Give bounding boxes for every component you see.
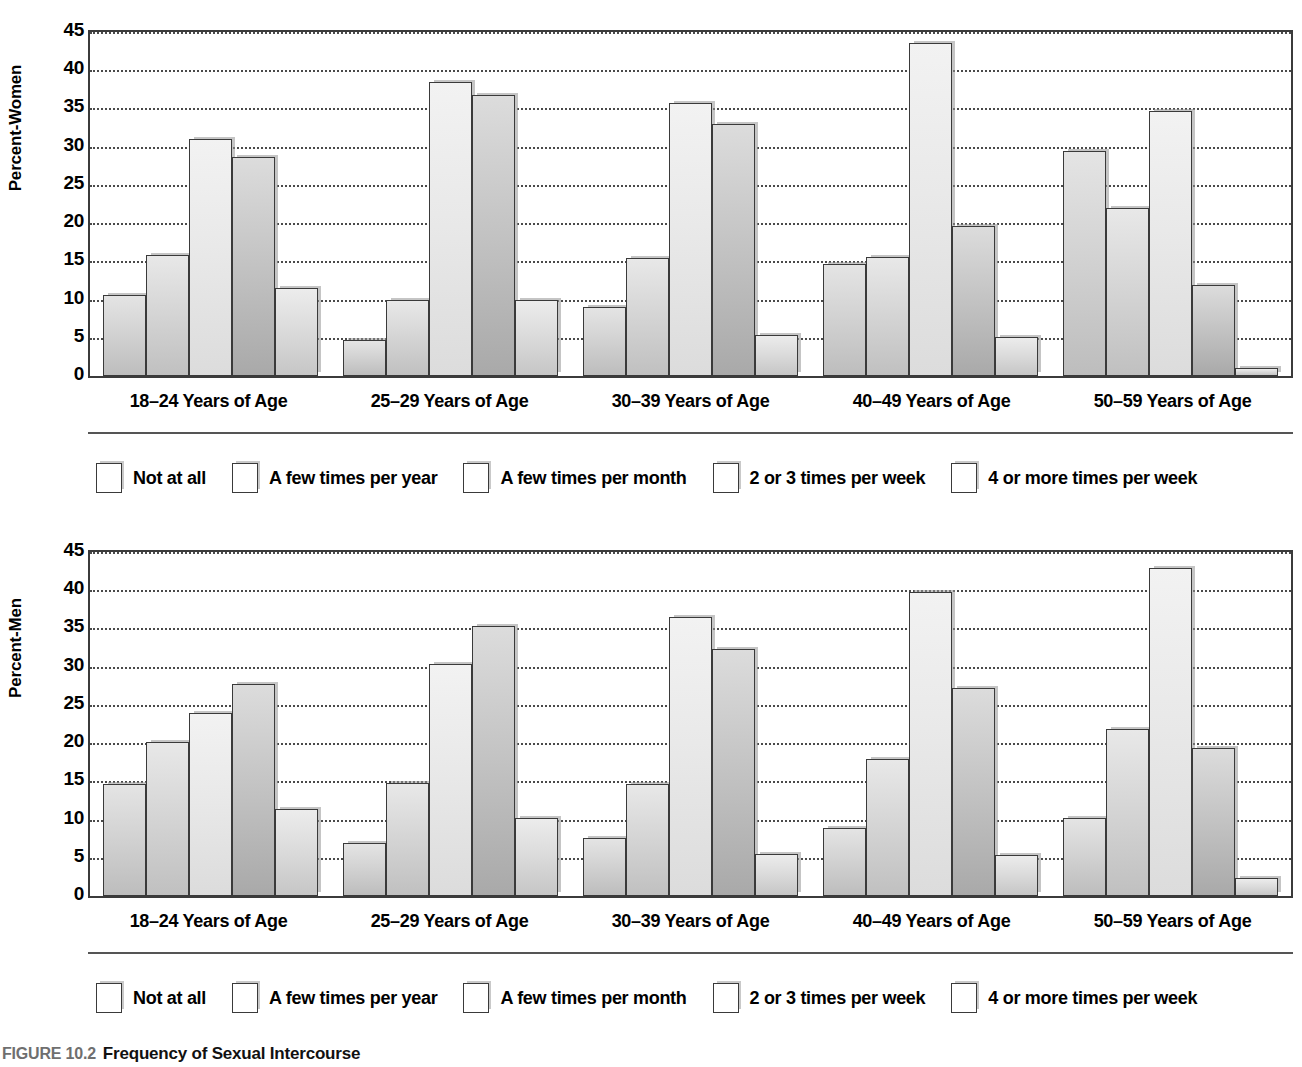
bar <box>712 124 755 376</box>
legend-item[interactable]: A few times per month <box>463 983 686 1013</box>
bar <box>472 95 515 376</box>
bar <box>343 843 386 896</box>
y-tick-label: 40 <box>28 57 84 79</box>
bar <box>626 784 669 896</box>
figure-title: Frequency of Sexual Intercourse <box>103 1044 360 1063</box>
y-tick-label: 20 <box>28 210 84 232</box>
bar <box>952 226 995 376</box>
legend-swatch-icon <box>463 983 489 1013</box>
legend-item[interactable]: Not at all <box>96 463 206 493</box>
bar-group <box>823 552 1038 896</box>
x-axis-category-labels-women: 18–24 Years of Age25–29 Years of Age30–3… <box>88 384 1293 418</box>
y-tick-label: 5 <box>28 845 84 867</box>
bar-group <box>1063 32 1278 376</box>
bar-groups-men <box>90 552 1291 896</box>
y-tick-label: 10 <box>28 287 84 309</box>
y-axis-title-men: Percent-Men <box>6 558 26 738</box>
bar <box>583 307 626 376</box>
bar <box>823 828 866 896</box>
bar <box>1235 878 1278 896</box>
y-tick-label: 30 <box>28 134 84 156</box>
y-tick-label: 45 <box>28 539 84 561</box>
y-tick-label: 45 <box>28 19 84 41</box>
bar <box>995 337 1038 376</box>
legend-label: 4 or more times per week <box>988 988 1197 1009</box>
bar <box>952 688 995 896</box>
x-axis-category-label: 40–49 Years of Age <box>853 391 1011 412</box>
y-tick-label: 35 <box>28 95 84 117</box>
x-axis-category-label: 30–39 Years of Age <box>612 911 770 932</box>
bar <box>189 713 232 896</box>
legend-item[interactable]: A few times per year <box>232 983 437 1013</box>
bar <box>275 288 318 376</box>
bar <box>1063 818 1106 896</box>
chart-panel-men: Percent-Men 051015202530354045 18–24 Yea… <box>0 520 1302 1025</box>
legend-item[interactable]: 2 or 3 times per week <box>713 983 926 1013</box>
bar <box>103 784 146 896</box>
bar <box>669 617 712 896</box>
legend-item[interactable]: 2 or 3 times per week <box>713 463 926 493</box>
bar <box>1149 111 1192 376</box>
legend-swatch-icon <box>951 463 977 493</box>
legend-divider-men <box>88 952 1293 954</box>
bar-group <box>823 32 1038 376</box>
legend-item[interactable]: A few times per year <box>232 463 437 493</box>
legend-item[interactable]: 4 or more times per week <box>951 463 1197 493</box>
bar <box>909 592 952 896</box>
legend-women: Not at allA few times per yearA few time… <box>96 458 1296 498</box>
y-tick-label: 25 <box>28 692 84 714</box>
y-tick-label: 30 <box>28 654 84 676</box>
legend-item[interactable]: Not at all <box>96 983 206 1013</box>
legend-label: 4 or more times per week <box>988 468 1197 489</box>
y-tick-label: 35 <box>28 615 84 637</box>
legend-swatch-icon <box>713 463 739 493</box>
legend-swatch-icon <box>232 463 258 493</box>
figure-caption: FIGURE 10.2Frequency of Sexual Intercour… <box>2 1044 1002 1067</box>
bar-groups-women <box>90 32 1291 376</box>
plot-area-men <box>88 550 1293 898</box>
bar <box>583 838 626 896</box>
y-tick-label: 15 <box>28 248 84 270</box>
bar <box>626 258 669 376</box>
y-tick-label: 15 <box>28 768 84 790</box>
bar <box>866 257 909 376</box>
legend-swatch-icon <box>96 983 122 1013</box>
legend-label: A few times per year <box>269 468 437 489</box>
bar <box>669 103 712 376</box>
bar <box>1149 568 1192 896</box>
bar <box>232 157 275 376</box>
legend-men: Not at allA few times per yearA few time… <box>96 978 1296 1018</box>
legend-divider-women <box>88 432 1293 434</box>
x-axis-category-label: 18–24 Years of Age <box>130 911 288 932</box>
bar-group <box>583 552 798 896</box>
bar <box>103 295 146 376</box>
legend-label: 2 or 3 times per week <box>750 988 926 1009</box>
bar <box>429 82 472 376</box>
y-tick-label: 25 <box>28 172 84 194</box>
legend-swatch-icon <box>232 983 258 1013</box>
bar-group <box>103 32 318 376</box>
y-tick-label: 5 <box>28 325 84 347</box>
bar-group <box>583 32 798 376</box>
bar <box>1106 729 1149 896</box>
y-tick-label: 0 <box>28 363 84 385</box>
bar <box>429 664 472 896</box>
legend-item[interactable]: A few times per month <box>463 463 686 493</box>
bar-group <box>1063 552 1278 896</box>
bar <box>755 854 798 896</box>
bar <box>343 340 386 376</box>
legend-item[interactable]: 4 or more times per week <box>951 983 1197 1013</box>
bar <box>515 818 558 896</box>
legend-label: A few times per year <box>269 988 437 1009</box>
bar <box>866 759 909 896</box>
bar <box>1192 285 1235 376</box>
bar <box>275 809 318 896</box>
y-tick-label: 40 <box>28 577 84 599</box>
bar-group <box>343 552 558 896</box>
bar <box>146 255 189 376</box>
plot-area-women <box>88 30 1293 378</box>
bar-group <box>343 32 558 376</box>
x-axis-category-label: 50–59 Years of Age <box>1094 911 1252 932</box>
bar <box>1235 368 1278 376</box>
y-tick-label: 0 <box>28 883 84 905</box>
